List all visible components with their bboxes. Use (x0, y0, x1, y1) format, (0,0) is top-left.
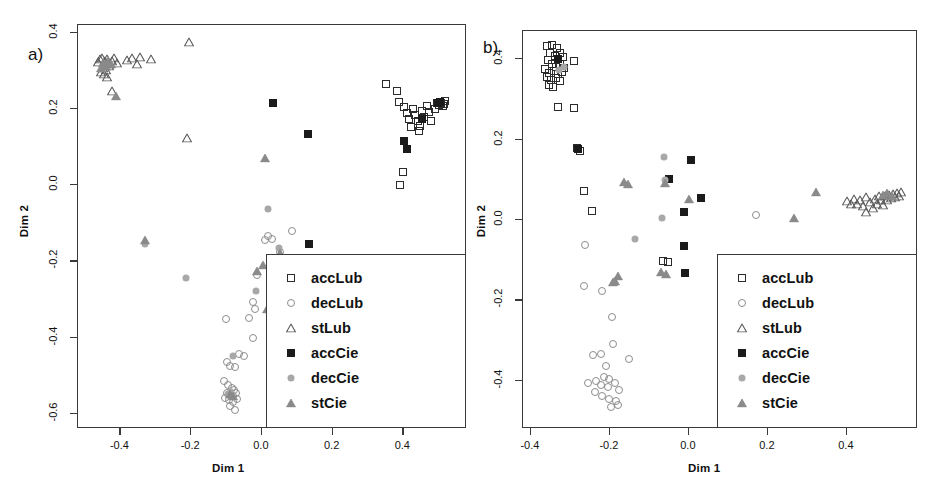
legend-marker-triangle-filled (734, 396, 750, 410)
marker-square-filled (418, 115, 426, 123)
y-tick-label: -0.2 (47, 245, 59, 273)
legend-item-stcie[interactable]: stCie (734, 394, 798, 411)
marker-square-filled (436, 98, 444, 106)
marker-square-open (415, 127, 423, 135)
y-tick-mark (70, 260, 77, 261)
y-tick-label: 0.4 (47, 17, 59, 45)
marker-square-open (738, 274, 746, 282)
y-tick-label: 0.4 (492, 43, 504, 71)
legend-item-stcie[interactable]: stCie (283, 394, 347, 411)
y-tick-label: 0.0 (492, 204, 504, 232)
marker-triangle-open (737, 323, 747, 332)
x-tick-mark (530, 428, 531, 435)
marker-triangle-filled (106, 60, 116, 69)
marker-square-filled (738, 349, 746, 357)
x-tick-mark (190, 428, 191, 435)
marker-square-open (554, 103, 562, 111)
marker-square-open (549, 83, 557, 91)
marker-triangle-filled (737, 398, 747, 407)
legend-item-acccie[interactable]: accCie (734, 344, 809, 361)
marker-triangle-open (182, 133, 192, 142)
marker-square-open (407, 123, 415, 131)
legend-item-declub[interactable]: decLub (734, 294, 814, 311)
marker-circle-open (222, 315, 230, 323)
legend-item-acclub[interactable]: accLub (283, 269, 362, 286)
x-tick-label: 0.2 (759, 439, 774, 451)
marker-circle-open (602, 362, 610, 370)
legend-label: stCie (762, 395, 798, 411)
legend-item-declub[interactable]: decLub (283, 294, 363, 311)
marker-triangle-open (135, 52, 145, 61)
marker-square-open (382, 80, 390, 88)
marker-triangle-filled (887, 191, 897, 200)
marker-circle-open (287, 299, 295, 307)
x-tick-label: -0.4 (110, 439, 129, 451)
legend-label: accLub (311, 270, 362, 286)
marker-circle-open (231, 363, 239, 371)
legend-marker-circle-open (734, 296, 750, 310)
legend-item-acccie[interactable]: accCie (283, 344, 358, 361)
x-tick-mark (688, 428, 689, 435)
legend-label: decCie (311, 370, 359, 386)
legend-label: accLub (762, 270, 813, 286)
marker-circle-filled (229, 352, 236, 359)
legend-marker-square-open (734, 271, 750, 285)
marker-triangle-filled (623, 179, 633, 188)
legend-marker-circle-open (283, 296, 299, 310)
marker-square-open (396, 181, 404, 189)
y-tick-mark (515, 58, 522, 59)
marker-circle-filled (253, 288, 260, 295)
marker-circle-open (288, 227, 296, 235)
legend-label: decLub (762, 295, 814, 311)
figure-root: a) Dim 2 Dim 1 -0.4-0.20.00.20.40.40.20.… (0, 0, 946, 502)
x-tick-mark (261, 428, 262, 435)
legend-label: decLub (311, 295, 363, 311)
legend-item-stlub[interactable]: stLub (283, 319, 351, 336)
marker-square-filled (680, 242, 688, 250)
marker-square-open (664, 258, 672, 266)
x-tick-label: -0.2 (181, 439, 200, 451)
legend-marker-circle-filled (734, 371, 750, 385)
x-tick-mark (609, 428, 610, 435)
x-tick-label: -0.2 (599, 439, 618, 451)
marker-triangle-open (146, 55, 156, 64)
marker-circle-open (580, 282, 588, 290)
legend-item-acclub[interactable]: accLub (734, 269, 813, 286)
legend-item-deccie[interactable]: decCie (283, 369, 359, 386)
marker-square-filled (403, 145, 411, 153)
marker-square-open (427, 117, 435, 125)
marker-square-filled (269, 99, 277, 107)
marker-circle-open (609, 340, 617, 348)
marker-square-filled (680, 208, 688, 216)
y-tick-mark (70, 413, 77, 414)
marker-square-filled (287, 349, 295, 357)
marker-triangle-filled (286, 398, 296, 407)
legend-label: stCie (311, 395, 347, 411)
panel-a-y-axis-label: Dim 2 (18, 191, 30, 251)
marker-triangle-filled (140, 236, 150, 245)
marker-square-filled (697, 194, 705, 202)
marker-triangle-filled (661, 269, 671, 278)
x-tick-label: 0.0 (680, 439, 695, 451)
marker-circle-open (240, 352, 248, 360)
marker-square-filled (574, 145, 582, 153)
marker-triangle-open (286, 323, 296, 332)
panel-b-legend: accLubdecLubstLubaccCiedecCiestCie (717, 254, 917, 428)
legend-label: accCie (311, 345, 358, 361)
legend-item-stlub[interactable]: stLub (734, 319, 802, 336)
marker-triangle-filled (811, 187, 821, 196)
marker-circle-filled (660, 153, 667, 160)
marker-triangle-filled (660, 178, 670, 187)
marker-triangle-open (102, 72, 112, 81)
marker-circle-open (625, 355, 633, 363)
legend-marker-triangle-open (283, 321, 299, 335)
legend-item-deccie[interactable]: decCie (734, 369, 810, 386)
marker-circle-open (584, 379, 592, 387)
marker-circle-filled (739, 374, 746, 381)
marker-triangle-filled (610, 277, 620, 286)
marker-square-filled (687, 156, 695, 164)
marker-square-filled (681, 269, 689, 277)
marker-circle-filled (264, 206, 271, 213)
legend-label: stLub (762, 320, 802, 336)
marker-circle-open (268, 235, 276, 243)
